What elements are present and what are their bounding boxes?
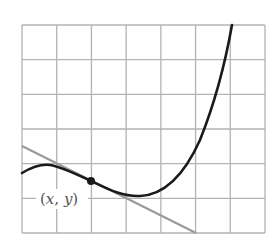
label-comma: , (54, 190, 64, 208)
point-label: (x, y) (40, 190, 78, 208)
graph-canvas: (x, y) (0, 0, 274, 248)
point-of-tangency (87, 177, 95, 185)
function-curve (22, 25, 232, 196)
label-close-paren: ) (72, 190, 78, 208)
